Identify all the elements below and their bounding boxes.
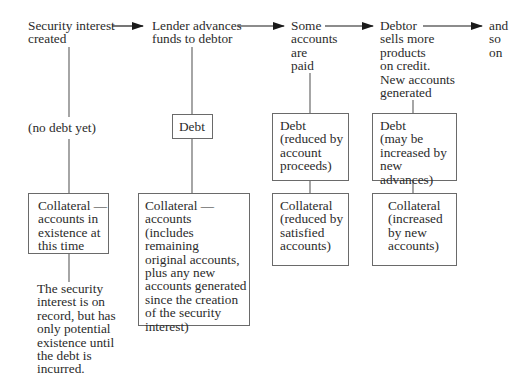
stage-5-title: and so on <box>489 19 508 59</box>
stage-3-collateral-text: Collateral (reduced by satisfied account… <box>280 199 343 253</box>
stage-2-collateral-box: Collateral — accounts (includes remainin… <box>138 193 250 326</box>
stage-1-title: Security interest created <box>28 19 115 46</box>
stage-2-title: Lender advances funds to debtor <box>152 19 242 46</box>
stage-4-debt-text: Debt (may be increased by new advances) <box>380 119 456 186</box>
stage-4-collateral-box: Collateral (increased by new accounts) <box>372 193 457 266</box>
stage-2-collateral-text: Collateral — accounts (includes remainin… <box>145 199 249 333</box>
stage-4-title: Debtor sells more products on credit. Ne… <box>380 19 455 99</box>
stage-1-note: The security interest is on record, but … <box>37 282 116 376</box>
stage-4-debt-box: Debt (may be increased by new advances) <box>372 113 457 181</box>
stage-3-title: Some accounts are paid <box>291 19 338 73</box>
stage-1-debt-label: (no debt yet) <box>28 121 96 134</box>
stage-1-collateral-box: Collateral — accounts in existence at th… <box>28 193 109 254</box>
stage-3-debt-box: Debt (reduced by account proceeds) <box>272 113 349 181</box>
stage-2-debt-box: Debt <box>172 114 213 139</box>
stage-4-collateral-text: Collateral (increased by new accounts) <box>388 199 443 253</box>
stage-3-debt-text: Debt (reduced by account proceeds) <box>280 119 343 173</box>
stage-2-debt-text: Debt <box>179 120 205 133</box>
stage-1-collateral-text: Collateral — accounts in existence at th… <box>38 199 107 253</box>
stage-3-collateral-box: Collateral (reduced by satisfied account… <box>272 193 349 266</box>
